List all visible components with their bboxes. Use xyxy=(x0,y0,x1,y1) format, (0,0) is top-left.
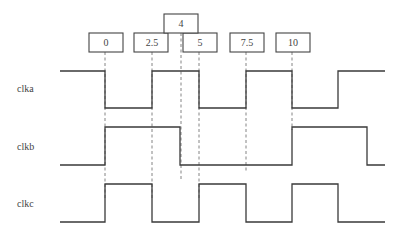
time-label-text: 4 xyxy=(179,18,184,29)
signal-label-clkc: clkc xyxy=(17,198,34,209)
timing-diagram: 0 2.5 5 4 7.5 10 clka clkb clkc xyxy=(0,0,401,241)
waveform-clka xyxy=(60,71,385,108)
time-label-text: 0 xyxy=(104,37,109,48)
time-label-10: 10 xyxy=(276,33,310,52)
waveform-clkb xyxy=(60,127,385,165)
time-label-text: 2.5 xyxy=(146,37,159,48)
time-label-text: 5 xyxy=(198,37,203,48)
signal-label-clka: clka xyxy=(17,83,34,94)
time-label-5: 5 xyxy=(183,33,217,52)
time-label-4: 4 xyxy=(164,14,198,33)
time-marker-lines xyxy=(105,33,292,200)
time-label-text: 7.5 xyxy=(241,37,254,48)
signal-label-clkb: clkb xyxy=(17,141,34,152)
time-label-0: 0 xyxy=(89,33,123,52)
waveform-clkc xyxy=(60,184,385,222)
time-label-text: 10 xyxy=(288,37,298,48)
time-label-2.5: 2.5 xyxy=(134,33,168,52)
time-label-7.5: 7.5 xyxy=(230,33,264,52)
